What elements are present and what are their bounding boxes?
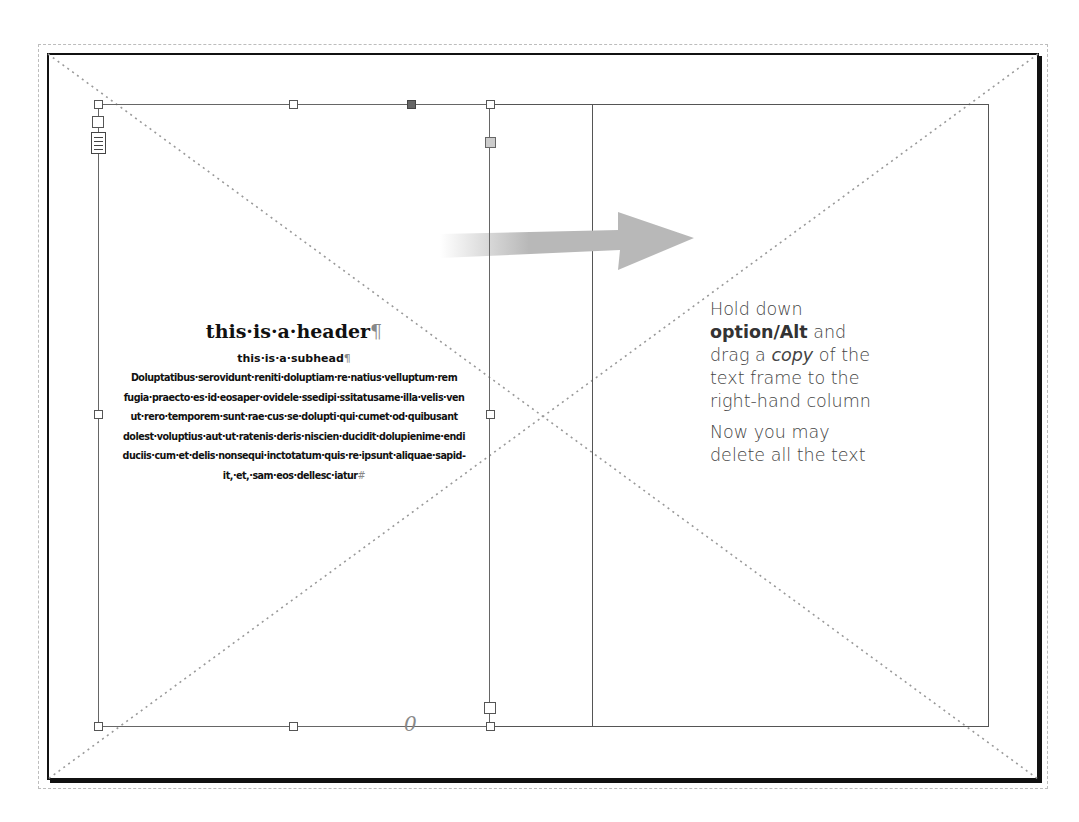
body-line: fugia·praecto·es·id·eosaper·ovidele·ssed… [98, 388, 490, 408]
live-corner-handle[interactable] [485, 137, 496, 148]
in-port[interactable] [92, 116, 104, 128]
body-line: dolest·voluptius·aut·ut·ratenis·deris·ni… [98, 427, 490, 447]
resize-handle-top-center[interactable] [289, 100, 298, 109]
header-text: this·is·a·header¶ [98, 320, 490, 342]
instruction-callout: Hold down option/Alt and drag a copy of … [710, 298, 940, 475]
resize-handle-bottom-right[interactable] [486, 722, 495, 731]
column-guide [592, 104, 593, 727]
out-port[interactable] [484, 702, 496, 714]
overflow-indicator: 0 [404, 712, 417, 736]
subhead-text: this·is·a·subhead¶ [98, 352, 490, 365]
resize-handle-top-left[interactable] [94, 100, 103, 109]
body-line: it,·et,·sam·eos·dellesc·iatur# [98, 466, 490, 486]
body-line: Doluptatibus·serovidunt·reniti·doluptiam… [98, 368, 490, 388]
resize-handle-top-right[interactable] [486, 100, 495, 109]
body-line: duciis·cum·et·delis·nonsequi·inctotatum·… [98, 446, 490, 466]
key-name: option/Alt [710, 322, 808, 342]
body-line: ut·rero·temporem·sunt·rae·cus·se·dolupti… [98, 407, 490, 427]
corner-options-handle[interactable] [407, 100, 416, 109]
frame-text[interactable]: this·is·a·header¶ this·is·a·subhead¶ Dol… [98, 320, 490, 485]
resize-handle-bottom-center[interactable] [289, 722, 298, 731]
text-thread-icon [91, 132, 106, 154]
resize-handle-bottom-left[interactable] [94, 722, 103, 731]
